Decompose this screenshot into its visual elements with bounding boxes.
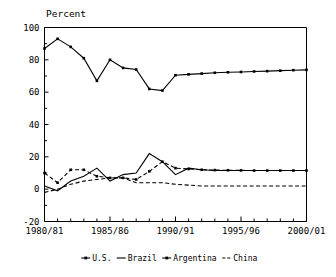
y-tick-label: 20 [29,152,40,162]
data-point-marker [69,168,72,171]
data-point-marker [227,169,230,172]
data-point-marker [122,67,125,70]
data-point-marker [83,168,86,171]
percent-line-chart: Percent -20020406080100 1980/811985/8619… [0,0,336,277]
data-point-marker [83,57,86,60]
data-point-marker [174,167,177,170]
legend-label-china: China [233,254,257,263]
y-tick-label: 40 [29,120,40,130]
data-point-marker [161,89,164,92]
data-point-marker [96,175,99,178]
data-point-marker [69,46,72,49]
x-tick-label: 2000/01 [288,226,326,236]
data-point-marker [305,69,308,72]
data-point-marker [109,59,112,62]
x-tick-label: 1995/96 [222,226,260,236]
data-point-marker [292,69,295,72]
data-point-marker [253,169,256,172]
data-point-marker [279,169,282,172]
chart-title: Percent [46,8,86,19]
legend-marker-icon [165,257,168,260]
data-point-marker [135,68,138,71]
legend-marker-icon [84,257,87,260]
data-point-marker [148,170,151,173]
y-tick-label: 80 [29,55,40,65]
data-point-marker [43,47,46,50]
legend-label-argentina: Argentina [173,254,217,263]
data-point-marker [187,168,190,171]
data-point-marker [214,169,217,172]
data-point-marker [148,88,151,91]
data-point-marker [214,71,217,74]
chart-page: Percent -20020406080100 1980/811985/8619… [0,0,336,277]
y-tick-label: 60 [29,87,40,97]
legend-label-us: U.S. [92,254,111,263]
data-point-marker [253,70,256,73]
data-point-marker [174,74,177,77]
data-point-marker [161,160,164,163]
data-point-marker [240,71,243,74]
data-point-marker [56,38,59,41]
data-point-marker [200,72,203,75]
data-point-marker [240,169,243,172]
y-tick-label: 0 [34,184,39,194]
data-point-marker [43,172,46,175]
x-tick-label: 1980/81 [26,226,64,236]
data-point-marker [292,169,295,172]
data-point-marker [200,168,203,171]
data-point-marker [305,169,308,172]
data-point-marker [279,69,282,72]
data-point-marker [266,169,269,172]
data-point-marker [227,71,230,74]
y-tick-label: 100 [23,23,39,33]
x-tick-label: 1990/91 [157,226,195,236]
legend-label-brazil: Brazil [128,254,157,263]
x-tick-label: 1985/86 [91,226,129,236]
data-point-marker [56,181,59,184]
data-point-marker [135,178,138,181]
data-point-marker [187,73,190,76]
data-point-marker [96,80,99,83]
data-point-marker [266,70,269,73]
